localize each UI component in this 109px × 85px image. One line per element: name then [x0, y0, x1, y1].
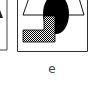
triangle-fragment [0, 10, 3, 18]
panel-e [18, 0, 88, 52]
panel-d-partial [0, 0, 7, 50]
checkered-l-shape [23, 16, 55, 42]
panel-label-e: e [45, 62, 59, 76]
